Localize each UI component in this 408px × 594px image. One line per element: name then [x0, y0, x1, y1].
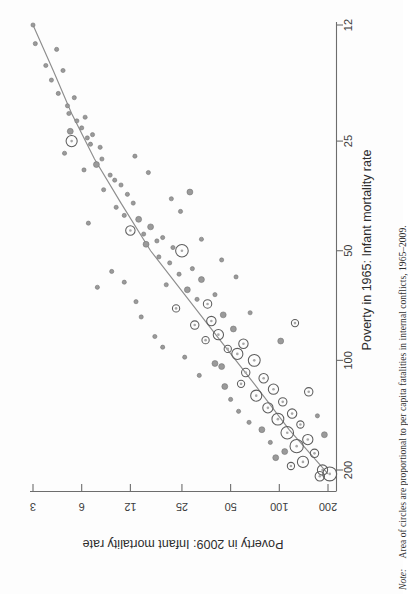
- data-point-core: [244, 371, 247, 374]
- data-point: [168, 261, 172, 265]
- data-point-core: [210, 320, 213, 323]
- bottom-tick-label: 200: [319, 501, 337, 513]
- data-point: [113, 178, 117, 182]
- data-point-core: [277, 418, 280, 421]
- data-point: [100, 157, 104, 161]
- data-point-core: [236, 353, 239, 356]
- data-point: [222, 384, 228, 390]
- data-point: [153, 334, 157, 338]
- bottom-tick-label: 6: [79, 501, 85, 513]
- data-point-core: [319, 475, 322, 478]
- data-point-core: [295, 445, 298, 448]
- data-point: [90, 133, 94, 137]
- data-point: [85, 136, 89, 140]
- data-point: [55, 47, 59, 51]
- data-point: [31, 23, 35, 27]
- data-point: [131, 201, 135, 205]
- data-point: [49, 78, 53, 82]
- data-point-core: [217, 333, 220, 336]
- trend-line: [33, 25, 328, 474]
- data-point: [95, 285, 99, 289]
- data-point: [268, 440, 272, 444]
- data-point: [236, 409, 240, 413]
- data-point: [171, 245, 175, 249]
- data-point: [219, 364, 225, 370]
- data-point-core: [193, 324, 196, 327]
- data-point: [197, 373, 201, 377]
- data-point-core: [294, 322, 297, 325]
- data-point: [102, 188, 106, 192]
- data-point: [108, 173, 112, 177]
- data-point: [146, 170, 150, 174]
- data-point-core: [291, 412, 294, 415]
- data-point-core: [253, 359, 256, 362]
- data-point-core: [262, 377, 265, 380]
- data-point-core: [226, 348, 229, 351]
- data-point: [195, 297, 199, 301]
- data-point: [72, 96, 76, 100]
- data-point: [213, 293, 217, 297]
- data-point-core: [313, 452, 316, 455]
- data-point-core: [272, 388, 275, 391]
- data-point-core: [307, 391, 310, 394]
- data-point-core: [242, 342, 245, 345]
- data-point: [155, 239, 159, 243]
- right-tick-label: 200: [342, 461, 354, 479]
- data-point: [33, 42, 37, 46]
- data-point-core: [328, 473, 331, 476]
- bottom-tick-label: 100: [270, 501, 288, 513]
- data-point: [56, 91, 60, 95]
- data-point: [143, 241, 149, 247]
- data-point: [82, 168, 86, 172]
- data-point-core: [129, 229, 132, 232]
- data-point-core: [286, 431, 289, 434]
- data-point: [161, 235, 165, 239]
- data-point-core: [306, 438, 309, 441]
- data-point: [133, 154, 137, 158]
- right-tick-label: 25: [342, 135, 354, 147]
- data-point: [86, 221, 90, 225]
- data-point: [229, 397, 233, 401]
- data-point: [62, 151, 66, 155]
- data-point: [247, 420, 251, 424]
- data-point: [183, 355, 187, 359]
- data-point-core: [281, 401, 284, 404]
- right-axis-ticks: 122550100200: [337, 19, 355, 479]
- right-tick-label: 12: [342, 19, 354, 31]
- data-point-core: [175, 307, 178, 310]
- bottom-tick-label: 12: [124, 501, 136, 513]
- data-point-core: [267, 407, 270, 410]
- data-point: [136, 216, 142, 222]
- data-point: [169, 197, 173, 201]
- data-point: [273, 455, 279, 461]
- bottom-axis-ticks: 36122550100200: [30, 484, 337, 513]
- figure-note: Note: Area of circles are proportional t…: [397, 225, 408, 590]
- data-point: [220, 312, 226, 318]
- data-point-core: [240, 383, 243, 386]
- x-axis-title: Poverty in 1965: Infant mortality rate: [360, 150, 374, 351]
- data-point: [161, 345, 165, 349]
- data-point: [315, 414, 319, 418]
- data-point: [98, 145, 102, 149]
- data-point-core: [70, 140, 73, 143]
- data-point: [184, 287, 190, 293]
- y-axis-title: Poverty in 2009: Infant mortality rate: [83, 537, 284, 551]
- data-point: [93, 162, 99, 168]
- data-point: [110, 269, 114, 273]
- data-point: [157, 255, 161, 259]
- data-point-core: [299, 423, 302, 426]
- data-point: [65, 104, 69, 108]
- data-point: [198, 277, 204, 283]
- data-point: [212, 361, 218, 367]
- data-point: [83, 115, 87, 119]
- data-point: [134, 300, 138, 304]
- fit-line: [33, 25, 328, 474]
- data-point-core: [204, 339, 207, 342]
- right-tick-label: 100: [342, 351, 354, 369]
- data-point: [122, 213, 126, 217]
- data-point: [139, 315, 143, 319]
- data-point: [114, 205, 118, 209]
